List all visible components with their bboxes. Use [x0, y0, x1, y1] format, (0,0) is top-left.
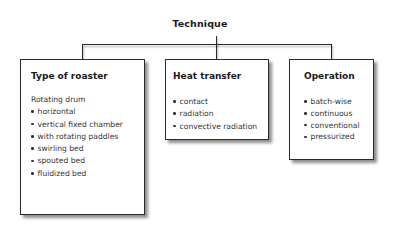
list-item-label: contact: [180, 97, 208, 106]
bullet-icon: [173, 112, 176, 115]
list-item: contact: [173, 96, 257, 108]
node-title: Type of roaster: [31, 71, 108, 81]
list-item: swirling bed: [31, 143, 123, 155]
list-item-label: swirling bed: [38, 144, 84, 153]
list-item-label: radiation: [180, 109, 214, 118]
bullet-icon: [173, 125, 176, 128]
connector-drop-operation: [331, 44, 332, 60]
bullet-icon: [31, 160, 34, 163]
list-item-label: horizontal: [38, 107, 76, 116]
bullet-icon: [31, 172, 34, 175]
root-node-technique: Technique: [0, 18, 400, 29]
list-item: pressurized: [304, 131, 360, 143]
list-item: horizontal: [31, 106, 123, 118]
node-title: Heat transfer: [173, 71, 241, 81]
list-item-label: fluidized bed: [38, 169, 87, 178]
node-operation: Operation batch-wise continuous conventi…: [289, 59, 374, 160]
bullet-icon: [304, 124, 307, 127]
list-item: with rotating paddles: [31, 131, 123, 143]
bullet-icon: [304, 100, 307, 103]
list-item: spouted bed: [31, 155, 123, 167]
bullet-icon: [31, 123, 34, 126]
list-item-label: vertical fixed chamber: [38, 120, 123, 129]
list-item-label: continuous: [311, 109, 353, 118]
bullet-icon: [173, 100, 176, 103]
list-item-label: convective radiation: [180, 122, 258, 131]
list-item: vertical fixed chamber: [31, 119, 123, 131]
bullet-icon: [304, 112, 307, 115]
node-item-list: Rotating drum horizontal vertical fixed …: [31, 94, 123, 180]
list-item: conventional: [304, 120, 360, 132]
connector-horizontal-bar: [82, 44, 332, 45]
list-item: batch-wise: [304, 96, 360, 108]
bullet-icon: [31, 135, 34, 138]
list-item-label: pressurized: [311, 132, 355, 141]
connector-drop-heat-transfer: [216, 44, 217, 60]
node-title: Operation: [304, 71, 355, 81]
list-item-label: conventional: [311, 121, 360, 130]
list-item: convective radiation: [173, 121, 257, 133]
node-subheading: Rotating drum: [31, 94, 123, 106]
bullet-icon: [31, 147, 34, 150]
list-item-label: with rotating paddles: [38, 132, 119, 141]
list-item-label: batch-wise: [311, 97, 352, 106]
node-heat-transfer: Heat transfer contact radiation convecti…: [165, 59, 269, 140]
node-item-list: contact radiation convective radiation: [173, 96, 257, 133]
node-item-list: batch-wise continuous conventional press…: [304, 96, 360, 143]
bullet-icon: [304, 136, 307, 139]
list-item: radiation: [173, 108, 257, 120]
node-type-of-roaster: Type of roaster Rotating drum horizontal…: [20, 59, 145, 215]
connector-drop-type-of-roaster: [82, 44, 83, 60]
list-item: continuous: [304, 108, 360, 120]
list-item-label: spouted bed: [38, 156, 85, 165]
list-item: fluidized bed: [31, 168, 123, 180]
bullet-icon: [31, 110, 34, 113]
